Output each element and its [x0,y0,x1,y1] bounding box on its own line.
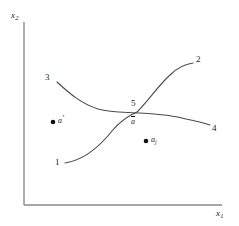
x-axis-label-subscript: 1 [220,212,223,219]
figure-container: x2 x1 1 2 3 4 5 a a′ aj [0,0,239,226]
curve-label-1: 1 [55,158,60,167]
prime-mark: ′ [62,114,64,123]
point-marker-a-j [144,139,149,144]
a-bar-text: a [131,116,135,126]
intersection-label-5: 5 [131,99,136,108]
intersection-label-a-bar: a [131,116,135,126]
plot-canvas [0,0,239,226]
x-axis-label: x1 [216,209,223,218]
y-axis-label-subscript: 2 [15,14,18,21]
a-j-subscript: j [155,139,157,145]
point-marker-a-prime [51,120,56,125]
curve-label-3: 3 [45,73,50,82]
point-label-a-prime: a′ [58,117,64,125]
curve-label-2: 2 [196,55,201,64]
y-axis-label: x2 [11,11,18,20]
point-label-a-j: aj [151,136,157,144]
curve-label-4: 4 [212,124,217,133]
